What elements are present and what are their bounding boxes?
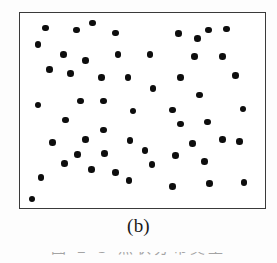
scatter-point [205,27,212,34]
scatter-plot-area [20,13,265,208]
scatter-point [219,136,226,143]
panel-label: (b) [0,214,277,238]
scatter-point [240,106,247,113]
scatter-point [112,30,119,37]
scatter-point [29,196,36,203]
scatter-point [98,74,105,81]
scatter-point [172,152,179,159]
scatter-point [73,27,80,34]
scatter-point [169,183,176,190]
scatter-point [35,41,42,48]
scatter-point [112,169,119,176]
scatter-point [125,74,132,81]
scatter-point [60,51,67,58]
figure-caption-clip: 图 2-3 点状分布类型 [0,252,277,263]
scatter-point [100,127,107,134]
scatter-point [82,57,89,64]
scatter-point [219,53,226,60]
scatter-point [49,139,56,146]
scatter-point [147,51,154,58]
figure-root: (b) 图 2-3 点状分布类型 [0,0,277,263]
scatter-point [142,147,149,154]
scatter-point [223,26,230,33]
scatter-point [74,151,81,158]
scatter-point [101,150,108,157]
scatter-point [177,121,184,128]
scatter-point [115,51,122,58]
scatter-point [196,92,203,99]
scatter-point [149,161,156,168]
scatter-point [236,138,243,145]
scatter-point [241,179,248,186]
scatter-point [46,66,53,73]
figure-caption: 图 2-3 点状分布类型 [0,252,277,257]
scatter-point [35,102,42,109]
scatter-point [189,140,196,147]
scatter-point [62,117,69,124]
scatter-point [201,158,208,165]
scatter-point [169,107,176,114]
scatter-point [89,20,96,27]
scatter-point [191,53,198,60]
scatter-point [67,70,74,77]
scatter-point [42,25,49,32]
scatter-point [150,85,157,92]
scatter-point [38,174,45,181]
scatter-point [177,74,184,81]
scatter-plot-panel [19,12,266,209]
scatter-point [88,166,95,173]
scatter-point [100,98,107,105]
scatter-point [206,180,213,187]
scatter-point [194,35,201,42]
scatter-point [61,160,68,167]
scatter-point [127,137,134,144]
scatter-point [175,30,182,37]
scatter-point [130,108,137,115]
scatter-point [82,136,89,143]
scatter-point [204,119,211,126]
scatter-point [77,98,84,105]
scatter-point [126,177,133,184]
scatter-point [232,72,239,79]
